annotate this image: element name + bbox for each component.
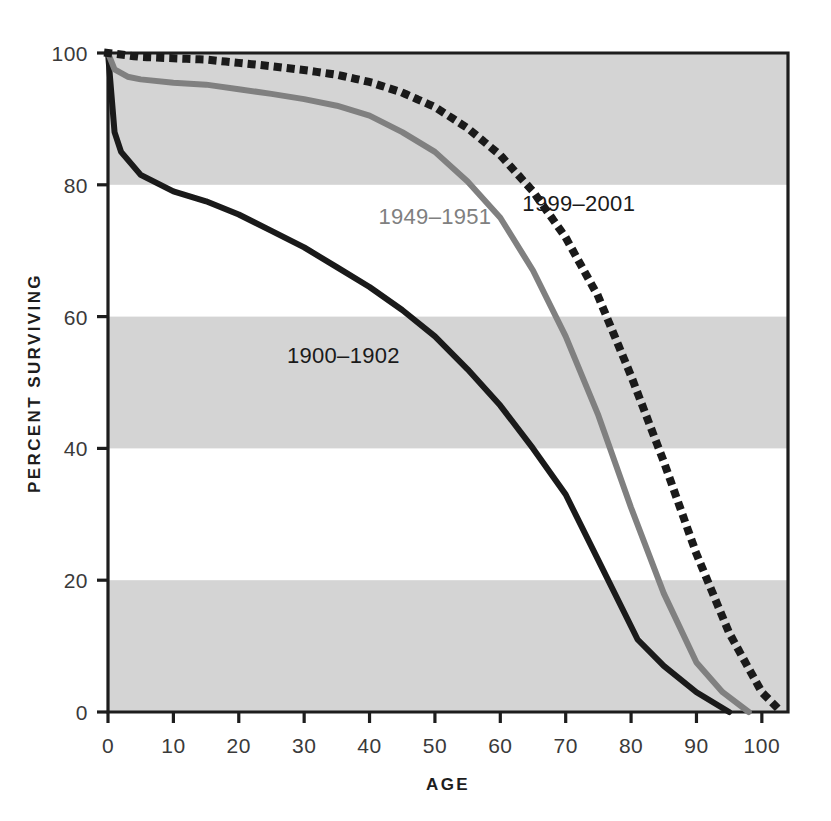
x-tick-label: 0 bbox=[102, 734, 114, 757]
plot-bands bbox=[108, 53, 788, 712]
x-tick-label: 70 bbox=[554, 734, 578, 757]
x-tick-label: 80 bbox=[619, 734, 643, 757]
y-tick-label: 80 bbox=[64, 174, 88, 197]
x-tick-label: 50 bbox=[423, 734, 447, 757]
y-tick-label: 60 bbox=[64, 306, 88, 329]
x-tick-label: 10 bbox=[161, 734, 185, 757]
y-tick-label: 100 bbox=[51, 42, 88, 65]
x-tick-label: 20 bbox=[227, 734, 251, 757]
shaded-band bbox=[108, 317, 788, 449]
y-axis-ticks: 020406080100 bbox=[51, 42, 108, 724]
x-tick-label: 90 bbox=[684, 734, 708, 757]
series-label-1999-2001: 1999–2001 bbox=[522, 191, 635, 216]
x-axis-ticks: 0102030405060708090100 bbox=[102, 712, 780, 757]
x-tick-label: 100 bbox=[744, 734, 781, 757]
y-tick-label: 40 bbox=[64, 437, 88, 460]
series-label-1900-1902: 1900–1902 bbox=[287, 343, 400, 368]
series-label-1949-1951: 1949–1951 bbox=[379, 204, 492, 229]
survival-curve-chart: 020406080100 0102030405060708090100 1900… bbox=[0, 0, 831, 821]
y-tick-label: 0 bbox=[76, 701, 88, 724]
y-tick-label: 20 bbox=[64, 569, 88, 592]
y-axis-title: PERCENT SURVIVING bbox=[25, 273, 44, 493]
x-tick-label: 30 bbox=[292, 734, 316, 757]
chart-canvas: 020406080100 0102030405060708090100 1900… bbox=[0, 0, 831, 821]
x-tick-label: 40 bbox=[357, 734, 381, 757]
x-axis-title: AGE bbox=[426, 775, 470, 794]
x-tick-label: 60 bbox=[488, 734, 512, 757]
